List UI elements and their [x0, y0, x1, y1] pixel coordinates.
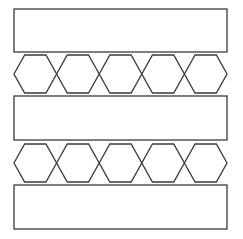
hexagon: [99, 144, 142, 182]
hexagon: [184, 144, 227, 182]
hexagon-row-2: [14, 144, 227, 182]
pattern-diagram: [0, 0, 243, 239]
hexagon-row-1: [14, 55, 227, 93]
hexagon: [142, 144, 185, 182]
diagram-svg: [0, 0, 243, 239]
hexagon: [57, 144, 100, 182]
hexagon: [57, 55, 100, 93]
hexagon: [142, 55, 185, 93]
rectangle-top: [14, 9, 227, 52]
rectangle-middle: [14, 96, 227, 140]
hexagon: [14, 55, 57, 93]
hexagon: [99, 55, 142, 93]
hexagon: [14, 144, 57, 182]
hexagon: [184, 55, 227, 93]
rectangle-bottom: [14, 185, 227, 229]
